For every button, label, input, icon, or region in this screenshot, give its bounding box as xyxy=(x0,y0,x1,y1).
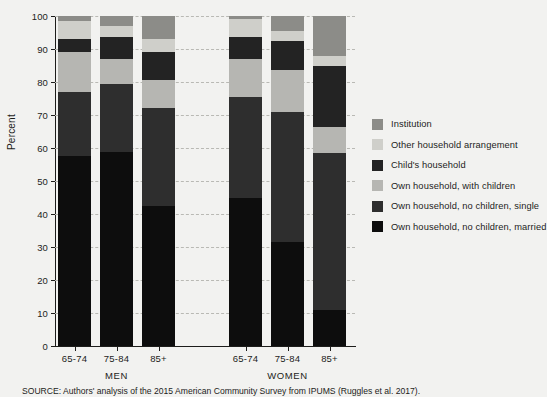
figure-container: Percent 0102030405060708090100 65-7475-8… xyxy=(0,0,547,397)
legend-swatch-icon xyxy=(372,180,383,191)
bar-segment xyxy=(58,39,91,52)
legend-item-label: Own household, no children, single xyxy=(391,201,539,211)
bar-stack xyxy=(142,16,175,346)
y-axis-tick-label: 0 xyxy=(22,342,48,351)
y-axis-tick-label: 10 xyxy=(22,309,48,318)
y-axis-tick-label: 60 xyxy=(22,144,48,153)
legend-swatch-icon xyxy=(372,221,383,232)
bar-segment xyxy=(313,127,346,153)
y-axis-tick-label: 30 xyxy=(22,243,48,252)
y-axis-title: Percent xyxy=(6,114,17,150)
bar-segment xyxy=(100,84,133,152)
bar-segment xyxy=(229,19,262,37)
bar-segment xyxy=(313,16,346,56)
bar-segment xyxy=(271,112,304,242)
bar-segment xyxy=(271,16,304,31)
bar-segment xyxy=(100,152,133,346)
bar-segment xyxy=(142,108,175,206)
bar-stack xyxy=(271,16,304,346)
bar-segment xyxy=(271,70,304,112)
legend-swatch-icon xyxy=(372,201,383,212)
legend-item-label: Own household, no children, married xyxy=(391,222,546,232)
bar-stack xyxy=(229,16,262,346)
x-axis-tick-label: 85+ xyxy=(300,353,360,364)
legend-item[interactable]: Child's household xyxy=(372,155,544,176)
bar-segment xyxy=(142,52,175,80)
source-note: SOURCE: Authors' analysis of the 2015 Am… xyxy=(22,386,420,396)
y-axis-tick-label: 80 xyxy=(22,78,48,87)
bar-segment xyxy=(58,92,91,156)
bar-segment xyxy=(142,206,175,346)
x-axis-tick-mark xyxy=(159,347,160,351)
chart-legend: InstitutionOther household arrangementCh… xyxy=(372,114,544,237)
legend-item[interactable]: Own household, no children, married xyxy=(372,217,544,238)
bar-segment xyxy=(100,59,133,84)
bar-stack xyxy=(58,16,91,346)
bar-segment xyxy=(271,31,304,41)
bar-segment xyxy=(58,156,91,346)
bar-segment xyxy=(142,16,175,39)
bar-segment xyxy=(142,39,175,52)
bar-segment xyxy=(58,21,91,39)
y-axis-tick-label: 90 xyxy=(22,45,48,54)
bar-segment xyxy=(313,66,346,127)
x-axis-tick-mark xyxy=(75,347,76,351)
x-axis-line xyxy=(55,346,356,347)
bar-segment xyxy=(229,59,262,97)
legend-item[interactable]: Own household, no children, single xyxy=(372,196,544,217)
x-axis-group-label: MEN xyxy=(57,370,177,381)
legend-item-label: Own household, with children xyxy=(391,181,515,191)
x-axis-tick-mark xyxy=(288,347,289,351)
bar-segment xyxy=(58,52,91,92)
bar-segment xyxy=(313,56,346,66)
bar-segment xyxy=(142,80,175,108)
bar-segment xyxy=(271,41,304,71)
plot-area xyxy=(55,16,355,346)
bar-segment xyxy=(229,37,262,58)
y-axis-tick-label: 100 xyxy=(22,12,48,21)
bar-segment xyxy=(100,26,133,38)
legend-swatch-icon xyxy=(372,160,383,171)
bar-segment xyxy=(229,97,262,198)
bar-segment xyxy=(313,153,346,310)
y-axis-tick-label: 50 xyxy=(22,177,48,186)
bar-stack xyxy=(313,16,346,346)
legend-item-label: Child's household xyxy=(391,160,466,170)
y-axis-tick-label: 70 xyxy=(22,111,48,120)
legend-swatch-icon xyxy=(372,119,383,130)
legend-item[interactable]: Institution xyxy=(372,114,544,135)
y-axis-tick-label: 20 xyxy=(22,276,48,285)
legend-item[interactable]: Own household, with children xyxy=(372,176,544,197)
y-axis-tick-label: 40 xyxy=(22,210,48,219)
bar-segment xyxy=(100,16,133,26)
x-axis-tick-mark xyxy=(117,347,118,351)
x-axis-tick-label: 85+ xyxy=(129,353,189,364)
bar-segment xyxy=(229,198,262,347)
legend-item-label: Institution xyxy=(391,119,432,129)
bar-segment xyxy=(313,310,346,346)
bar-stack xyxy=(100,16,133,346)
legend-swatch-icon xyxy=(372,139,383,150)
legend-item-label: Other household arrangement xyxy=(391,140,518,150)
y-axis-tick-mark xyxy=(51,346,55,347)
bar-segment xyxy=(271,242,304,346)
bar-segment xyxy=(100,37,133,58)
x-axis-tick-mark xyxy=(246,347,247,351)
x-axis-group-label: WOMEN xyxy=(228,370,348,381)
x-axis-tick-mark xyxy=(330,347,331,351)
legend-item[interactable]: Other household arrangement xyxy=(372,135,544,156)
